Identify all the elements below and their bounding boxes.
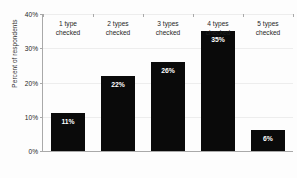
x-tick-label-line: 5 types <box>237 20 297 29</box>
bar[interactable]: 22% <box>101 76 135 151</box>
bar-value-label: 26% <box>151 67 185 74</box>
y-tick-label: 40% <box>2 11 38 18</box>
bar[interactable]: 6% <box>251 130 285 151</box>
chart-title <box>0 0 297 5</box>
bar-value-label: 22% <box>101 81 135 88</box>
bar[interactable]: 26% <box>151 62 185 151</box>
bar-value-label: 11% <box>51 118 85 125</box>
x-tick-mark <box>193 14 194 17</box>
x-tick-mark <box>293 14 294 17</box>
y-tick-label: 30% <box>2 45 38 52</box>
x-tick-mark <box>243 14 244 17</box>
plot-area: 0%10%20%30%40% 11%22%26%35%6% 1 typechec… <box>42 14 293 152</box>
x-tick-mark <box>43 14 44 17</box>
bar-value-label: 6% <box>251 135 285 142</box>
bar-chart-figure: Percent of respondents 0%10%20%30%40% 11… <box>0 0 297 178</box>
x-tick-label: 5 typeschecked <box>237 20 297 37</box>
x-tick-mark <box>93 14 94 17</box>
bar[interactable]: 35% <box>201 31 235 151</box>
y-tick-label: 10% <box>2 113 38 120</box>
y-tick-label: 0% <box>2 148 38 155</box>
x-tick-label-line: checked <box>237 29 297 38</box>
y-tick-mark <box>40 151 43 152</box>
x-tick-mark <box>143 14 144 17</box>
bar[interactable]: 11% <box>51 113 85 151</box>
y-tick-label: 20% <box>2 79 38 86</box>
